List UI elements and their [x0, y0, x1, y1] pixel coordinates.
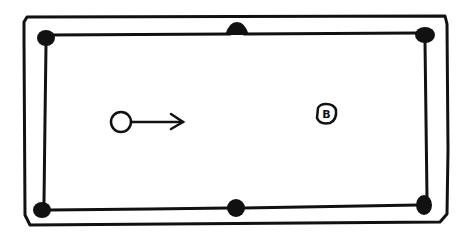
- pocket-bottom-middle: [227, 199, 245, 217]
- pocket-bottom-right: [416, 195, 432, 215]
- object-ball-b: B: [317, 104, 336, 123]
- pocket-bottom-left: [33, 202, 51, 218]
- pocket-top-left: [37, 30, 55, 46]
- pockets: [33, 22, 435, 218]
- outer-rail: [24, 16, 448, 225]
- pocket-top-middle: [225, 22, 249, 35]
- pool-table-diagram: B: [0, 0, 470, 241]
- inner-cushion: [44, 33, 427, 210]
- object-ball-label: B: [322, 108, 330, 121]
- aim-arrow-icon: [131, 114, 183, 129]
- pocket-top-right: [415, 27, 435, 43]
- cue-ball: [111, 112, 131, 132]
